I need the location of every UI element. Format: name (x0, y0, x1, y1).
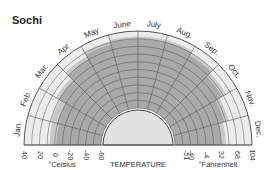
fahrenheit-tick: 68 (234, 151, 241, 159)
month-label: May (83, 26, 100, 40)
fahrenheit-tick: -40 (188, 150, 195, 160)
month-label: Dec. (253, 120, 264, 137)
fahrenheit-label: °Fahrenheit (199, 160, 239, 169)
celsius-label: °Celsius (48, 160, 76, 169)
fahrenheit-tick: 104 (249, 149, 256, 161)
celsius-tick: -20 (67, 150, 74, 160)
celsius-tick: -40 (83, 150, 90, 160)
celsius-tick: -60 (98, 150, 105, 160)
celsius-tick: 20 (37, 151, 44, 159)
fahrenheit-tick: 32 (218, 151, 225, 159)
month-label: July (146, 19, 161, 30)
fahrenheit-tick: -4 (203, 152, 210, 158)
center-label: TEMPERATURE (110, 160, 166, 169)
celsius-tick: 0 (52, 153, 59, 157)
polar-temperature-chart: Sochi Jan.Feb.Mar.Apr.MayJuneJulyAug.Sep… (0, 0, 273, 170)
chart-container: Sochi Jan.Feb.Mar.Apr.MayJuneJulyAug.Sep… (0, 0, 273, 170)
celsius-tick: 40 (21, 151, 28, 159)
chart-title: Sochi (12, 14, 42, 26)
month-label: June (113, 19, 132, 30)
month-label: Jan. (12, 121, 23, 137)
